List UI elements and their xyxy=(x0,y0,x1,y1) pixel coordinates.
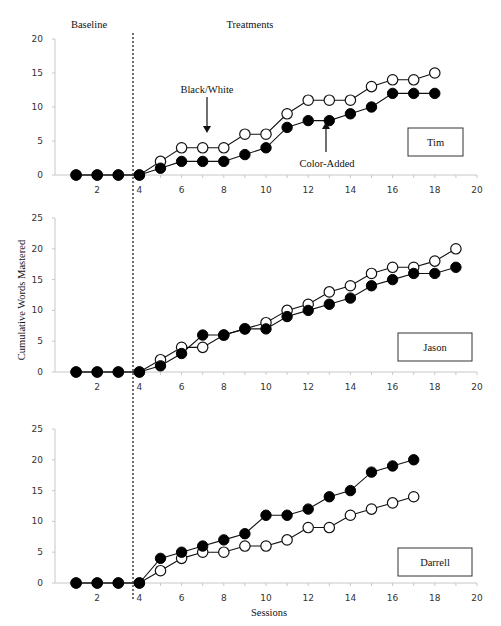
data-point-filled-circle xyxy=(366,281,376,291)
data-point-filled-circle xyxy=(198,330,208,340)
participant-name: Tim xyxy=(427,137,444,148)
x-tick-label: 12 xyxy=(302,382,313,392)
y-tick-label: 10 xyxy=(32,516,44,526)
data-point-filled-circle xyxy=(324,299,334,309)
y-tick-label: 10 xyxy=(32,102,44,112)
data-point-open-circle xyxy=(282,109,292,119)
data-point-filled-circle xyxy=(240,149,250,159)
data-point-filled-circle xyxy=(219,535,229,545)
x-tick-label: 14 xyxy=(345,185,357,195)
x-axis-label: Sessions xyxy=(251,607,287,618)
annotation-black-white-label: Black/White xyxy=(180,84,233,95)
data-point-open-circle xyxy=(198,342,208,352)
data-point-filled-circle xyxy=(92,367,102,377)
x-tick-label: 8 xyxy=(221,382,227,392)
data-point-open-circle xyxy=(345,510,355,520)
data-point-open-circle xyxy=(409,492,419,502)
x-tick-label: 4 xyxy=(137,185,143,195)
x-tick-label: 20 xyxy=(471,185,483,195)
data-point-filled-circle xyxy=(366,102,376,112)
x-tick-label: 12 xyxy=(302,593,313,603)
data-point-open-circle xyxy=(345,281,355,291)
y-tick-label: 15 xyxy=(32,68,43,78)
data-point-filled-circle xyxy=(303,504,313,514)
series-line-black-white xyxy=(76,497,414,583)
data-point-open-circle xyxy=(451,244,461,254)
data-point-filled-circle xyxy=(303,115,313,125)
multiple-baseline-figure: Baseline Treatments Cumulative Words Mas… xyxy=(0,0,501,626)
phase-label-treatments: Treatments xyxy=(227,19,274,30)
data-point-filled-circle xyxy=(155,163,165,173)
data-point-open-circle xyxy=(198,143,208,153)
x-tick-label: 18 xyxy=(429,185,441,195)
x-tick-label: 18 xyxy=(429,382,441,392)
data-point-filled-circle xyxy=(261,143,271,153)
data-point-open-circle xyxy=(409,75,419,85)
data-point-open-circle xyxy=(240,541,250,551)
y-tick-label: 0 xyxy=(37,578,43,588)
arrowhead-down-icon xyxy=(203,126,211,133)
x-tick-label: 6 xyxy=(179,382,185,392)
data-point-filled-circle xyxy=(345,293,355,303)
data-point-filled-circle xyxy=(430,88,440,98)
y-tick-label: 0 xyxy=(37,367,43,377)
annotation-color-added-label: Color-Added xyxy=(299,158,355,169)
phase-label-baseline: Baseline xyxy=(71,19,107,30)
x-tick-label: 8 xyxy=(221,185,227,195)
data-point-filled-circle xyxy=(345,485,355,495)
data-point-filled-circle xyxy=(113,578,123,588)
panel-tim: 246810121416182005101520Tim xyxy=(32,34,483,195)
data-point-open-circle xyxy=(240,129,250,139)
x-tick-label: 10 xyxy=(260,185,272,195)
data-point-open-circle xyxy=(303,522,313,532)
data-point-filled-circle xyxy=(366,467,376,477)
y-tick-label: 5 xyxy=(37,547,43,557)
y-tick-label: 5 xyxy=(37,336,43,346)
data-point-filled-circle xyxy=(409,455,419,465)
data-point-open-circle xyxy=(176,143,186,153)
data-point-filled-circle xyxy=(261,324,271,334)
y-tick-label: 0 xyxy=(37,170,43,180)
data-point-open-circle xyxy=(261,541,271,551)
data-point-filled-circle xyxy=(387,274,397,284)
y-tick-label: 25 xyxy=(32,213,43,223)
x-tick-label: 16 xyxy=(387,185,399,195)
data-point-filled-circle xyxy=(176,156,186,166)
data-point-filled-circle xyxy=(134,367,144,377)
data-point-filled-circle xyxy=(134,578,144,588)
data-point-filled-circle xyxy=(240,529,250,539)
data-point-filled-circle xyxy=(387,88,397,98)
data-point-filled-circle xyxy=(113,170,123,180)
y-tick-label: 20 xyxy=(32,244,44,254)
series-line-black-white xyxy=(76,73,435,175)
data-point-open-circle xyxy=(387,262,397,272)
annotation-color-added: Color-Added xyxy=(299,122,355,169)
data-point-filled-circle xyxy=(409,268,419,278)
data-point-open-circle xyxy=(366,81,376,91)
participant-name: Darrell xyxy=(420,557,450,568)
data-point-filled-circle xyxy=(71,578,81,588)
data-point-filled-circle xyxy=(282,510,292,520)
data-point-open-circle xyxy=(387,498,397,508)
data-point-open-circle xyxy=(324,287,334,297)
data-point-filled-circle xyxy=(282,311,292,321)
data-point-filled-circle xyxy=(92,578,102,588)
data-point-filled-circle xyxy=(92,170,102,180)
data-point-filled-circle xyxy=(451,262,461,272)
data-point-filled-circle xyxy=(113,367,123,377)
data-point-open-circle xyxy=(261,129,271,139)
data-point-open-circle xyxy=(430,68,440,78)
data-point-open-circle xyxy=(219,143,229,153)
data-point-filled-circle xyxy=(282,122,292,132)
x-tick-label: 14 xyxy=(345,593,357,603)
data-point-open-circle xyxy=(324,95,334,105)
x-tick-label: 18 xyxy=(429,593,441,603)
data-point-open-circle xyxy=(345,95,355,105)
x-tick-label: 10 xyxy=(260,382,272,392)
data-point-filled-circle xyxy=(303,305,313,315)
x-tick-label: 4 xyxy=(137,382,143,392)
data-point-open-circle xyxy=(303,95,313,105)
x-tick-label: 6 xyxy=(179,593,185,603)
y-tick-label: 5 xyxy=(37,136,43,146)
x-tick-label: 16 xyxy=(387,382,399,392)
